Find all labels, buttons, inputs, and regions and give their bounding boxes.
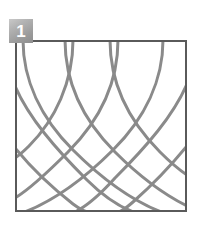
curved-lattice-svg [15,40,187,212]
figure-number-label: 1 [16,23,25,40]
figure-number-badge: 1 [9,19,33,43]
pattern-frame [15,40,187,212]
figure-stage: 1 [0,0,197,245]
